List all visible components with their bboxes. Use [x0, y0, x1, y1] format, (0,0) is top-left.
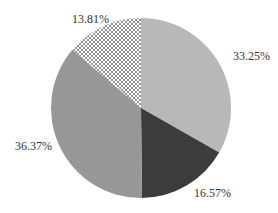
slice-label-16-57: 16.57% [194, 187, 231, 199]
slice-label-36-37: 36.37% [15, 140, 52, 152]
slice-label-13-81: 13.81% [72, 13, 109, 25]
slice-label-33-25: 33.25% [233, 50, 270, 62]
pie-chart [0, 0, 278, 213]
